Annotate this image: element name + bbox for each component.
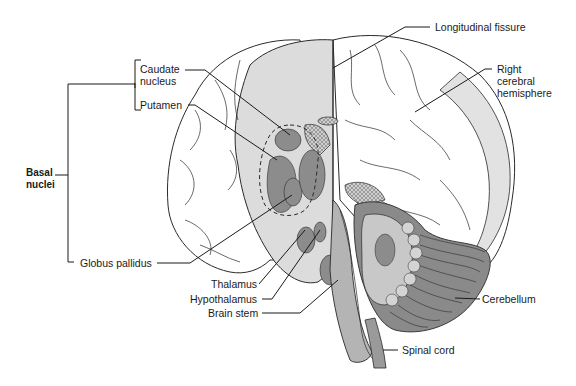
label-cerebellum: Cerebellum xyxy=(482,293,536,305)
label-globus-pallidus: Globus pallidus xyxy=(80,257,152,269)
label-right-hemisphere-line2: cerebral xyxy=(497,75,535,87)
label-longitudinal-fissure: Longitudinal fissure xyxy=(435,21,525,33)
label-caudate-line2: nucleus xyxy=(140,75,176,87)
label-caudate-line1: Caudate xyxy=(140,63,180,75)
label-putamen: Putamen xyxy=(140,99,182,111)
label-basal-line1: Basal xyxy=(26,167,53,179)
caudate-nucleus xyxy=(275,129,301,151)
label-hypothalamus: Hypothalamus xyxy=(190,293,257,305)
brain-diagram xyxy=(0,0,576,386)
label-right-hemisphere-line3: hemisphere xyxy=(497,87,552,99)
label-right-hemisphere-line1: Right xyxy=(497,63,522,75)
label-basal-line2: nuclei xyxy=(26,179,55,191)
label-thalamus: Thalamus xyxy=(211,278,257,290)
label-spinal-cord: Spinal cord xyxy=(402,344,455,356)
label-brain-stem: Brain stem xyxy=(208,307,258,319)
thalamus-nucleus xyxy=(297,227,315,253)
